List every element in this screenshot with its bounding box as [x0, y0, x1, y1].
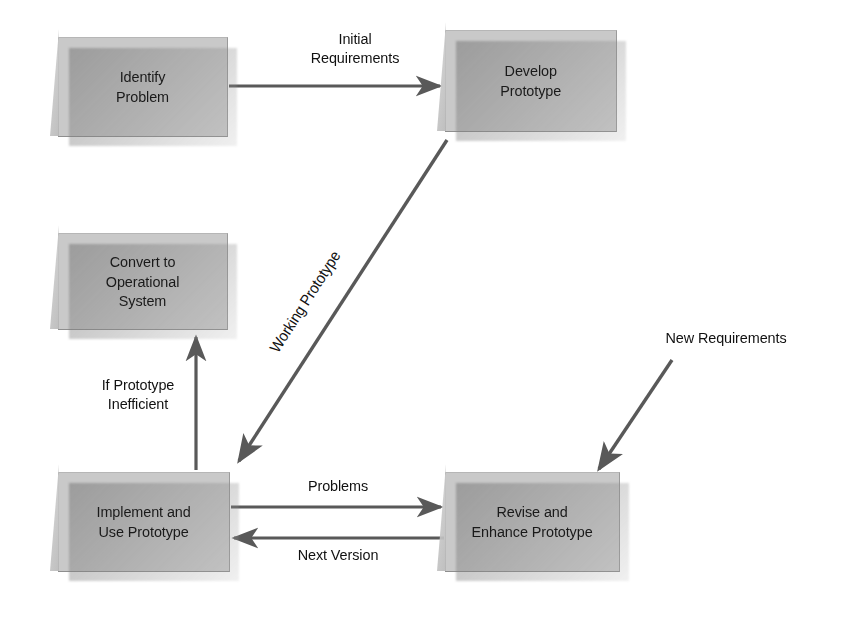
- arrow-new-requirements: [599, 360, 672, 469]
- node-identify-problem[interactable]: Identify Problem: [58, 37, 228, 137]
- node-label: Convert to Operational System: [101, 252, 186, 311]
- node-implement-and-use-prototype[interactable]: Implement and Use Prototype: [58, 472, 230, 572]
- node-label: Develop Prototype: [495, 61, 567, 101]
- prototyping-process-diagram: Identify Problem Develop Prototype Conve…: [0, 0, 843, 629]
- node-label: Identify Problem: [111, 67, 175, 107]
- node-convert-to-operational-system[interactable]: Convert to Operational System: [58, 233, 228, 330]
- node-revise-and-enhance-prototype[interactable]: Revise and Enhance Prototype: [445, 472, 620, 572]
- node-develop-prototype[interactable]: Develop Prototype: [445, 30, 617, 132]
- arrow-working-prototype: [239, 140, 447, 461]
- node-label: Implement and Use Prototype: [91, 502, 196, 542]
- node-label: Revise and Enhance Prototype: [466, 502, 598, 542]
